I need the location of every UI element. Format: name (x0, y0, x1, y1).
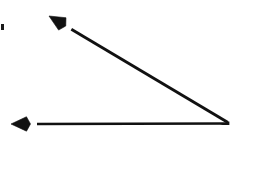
angle-figure-canvas (0, 0, 259, 177)
diagonal-ray-arrowhead (49, 16, 66, 30)
diagonal-ray-shaft (71, 29, 228, 122)
horizontal-ray-arrowhead (11, 117, 31, 131)
scan-speck (1, 24, 4, 30)
angle-diagram-svg (0, 0, 259, 177)
